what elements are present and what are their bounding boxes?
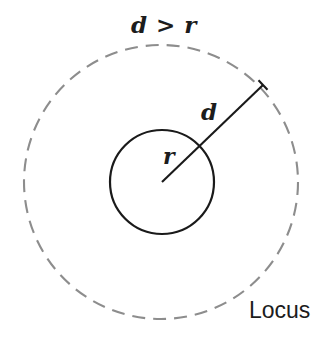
radius-label: r [163, 145, 175, 167]
distance-label: d [201, 100, 217, 123]
locus-label: Locus [249, 299, 310, 322]
relation-label: d > r [131, 13, 197, 36]
locus-diagram-figure: d > r d r Locus [0, 0, 334, 349]
